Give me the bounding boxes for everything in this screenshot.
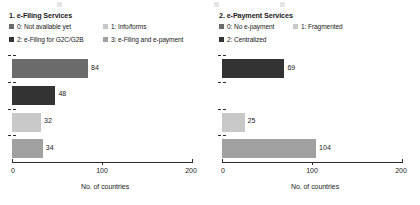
bar-value: 69 bbox=[287, 64, 295, 71]
bar-value: 104 bbox=[319, 144, 331, 151]
legend-label-1: 1: Info/forms bbox=[111, 23, 146, 30]
x-axis-tick bbox=[402, 159, 403, 162]
panel-e-filing: 1. e-Filing Services 0: Not available ye… bbox=[0, 0, 210, 205]
bar-value: 34 bbox=[46, 144, 54, 151]
x-axis-tick-label: 200 bbox=[185, 167, 197, 174]
x-axis-tick-label: 0 bbox=[11, 167, 15, 174]
x-axis-tick-label: 100 bbox=[306, 167, 318, 174]
x-axis-tick bbox=[192, 159, 193, 162]
legend-label-2: 2: Centralized bbox=[227, 36, 266, 43]
x-axis-title: No. of countries bbox=[0, 183, 210, 190]
legend-item-1: 1: Fragmented bbox=[293, 23, 343, 30]
row-tick-right bbox=[13, 82, 16, 83]
row-tick-left bbox=[8, 109, 11, 110]
bar bbox=[12, 113, 41, 132]
legend-item-2: 2: Centralized bbox=[219, 36, 266, 43]
legend-item-2: 2: e-Filing for G2C/G2B bbox=[9, 36, 84, 43]
panel-title: 2. e-Payment Services bbox=[219, 11, 293, 20]
legend-label-2: 2: e-Filing for G2C/G2B bbox=[17, 36, 84, 43]
row-tick-right bbox=[223, 55, 226, 56]
row-tick-right bbox=[13, 55, 16, 56]
row-tick-right bbox=[13, 135, 16, 136]
bar bbox=[12, 86, 55, 105]
legend-label-3: 3: e-Filing and e-payment bbox=[111, 36, 183, 43]
bar-value: 84 bbox=[91, 64, 99, 71]
x-axis-tick-label: 100 bbox=[96, 167, 108, 174]
row-tick-right bbox=[223, 135, 226, 136]
row-tick-left bbox=[8, 55, 11, 56]
plot-area-e-payment: 69 25 104 bbox=[222, 55, 403, 162]
row-tick-left bbox=[8, 135, 11, 136]
bar bbox=[12, 139, 43, 158]
row-tick-right bbox=[223, 82, 226, 83]
legend-swatch-1 bbox=[103, 24, 108, 29]
x-axis-tick bbox=[222, 159, 223, 162]
legend-swatch-0 bbox=[9, 24, 14, 29]
x-axis-tick-label: 200 bbox=[395, 167, 407, 174]
legend-swatch-0 bbox=[219, 24, 224, 29]
legend-swatch-3 bbox=[103, 37, 108, 42]
legend-item-0: 0: Not available yet bbox=[9, 23, 71, 30]
bar bbox=[222, 59, 284, 78]
legend-swatch-2 bbox=[9, 37, 14, 42]
legend-swatch-1 bbox=[293, 24, 298, 29]
bar-value: 48 bbox=[58, 90, 66, 97]
legend-label-0: 0: Not available yet bbox=[17, 23, 71, 30]
legend-swatch-2 bbox=[219, 37, 224, 42]
row-tick-left bbox=[8, 82, 11, 83]
bar-value: 25 bbox=[248, 117, 256, 124]
legend-item-0: 0: No e-payment bbox=[219, 23, 274, 30]
row-tick-right bbox=[223, 109, 226, 110]
row-tick-right bbox=[13, 109, 16, 110]
row-tick-left bbox=[218, 55, 221, 56]
legend-label-0: 0: No e-payment bbox=[227, 23, 274, 30]
x-axis-tick-label: 0 bbox=[221, 167, 225, 174]
figure-container: 1. e-Filing Services 0: Not available ye… bbox=[0, 0, 420, 205]
x-axis-tick bbox=[312, 162, 313, 165]
bar-value: 32 bbox=[44, 117, 52, 124]
legend-item-3: 3: e-Filing and e-payment bbox=[103, 36, 183, 43]
bar bbox=[222, 139, 316, 158]
row-tick-left bbox=[218, 82, 221, 83]
x-axis-tick bbox=[102, 162, 103, 165]
row-tick-left bbox=[218, 109, 221, 110]
bar bbox=[12, 59, 88, 78]
panel-e-payment: 2. e-Payment Services 0: No e-payment 1:… bbox=[210, 0, 420, 205]
legend-label-1: 1: Fragmented bbox=[301, 23, 343, 30]
x-axis-title: No. of countries bbox=[210, 183, 420, 190]
bar bbox=[222, 113, 245, 132]
plot-area-e-filing: 84 48 32 34 bbox=[12, 55, 193, 162]
panel-title: 1. e-Filing Services bbox=[9, 11, 72, 20]
x-axis-tick bbox=[12, 159, 13, 162]
row-tick-left bbox=[218, 135, 221, 136]
legend-item-1: 1: Info/forms bbox=[103, 23, 146, 30]
